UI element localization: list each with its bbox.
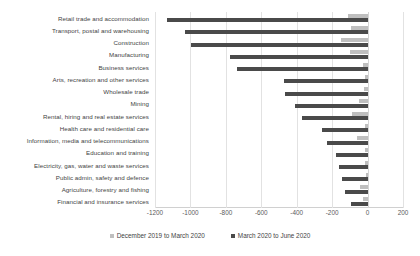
legend-swatch-light-icon <box>110 234 114 238</box>
category-label: Rental, hiring and real estate services <box>43 113 149 120</box>
legend-label: December 2019 to March 2020 <box>117 232 205 239</box>
bar-group <box>155 122 403 134</box>
bar-series-1 <box>322 128 368 132</box>
plot-area <box>155 12 403 208</box>
bar-series-1 <box>284 79 367 83</box>
x-tick-label: -600 <box>255 209 268 216</box>
category-label: Electricity, gas, water and waste servic… <box>34 162 149 169</box>
legend-item[interactable]: March 2020 to June 2020 <box>231 232 310 239</box>
bar-group <box>155 86 403 98</box>
bar-group <box>155 24 403 36</box>
bar-series-0 <box>352 112 368 116</box>
category-label: Wholesale trade <box>103 88 149 95</box>
bar-chart: Retail trade and accommodationTransport,… <box>0 0 420 256</box>
x-tick-label: -1200 <box>147 209 163 216</box>
legend-swatch-dark-icon <box>231 234 235 238</box>
bar-series-0 <box>360 185 368 189</box>
bar-series-1 <box>295 104 368 108</box>
bar-series-1 <box>237 67 367 71</box>
gridline <box>403 12 404 208</box>
category-label: Business services <box>98 64 149 71</box>
bar-series-0 <box>365 75 368 79</box>
bar-series-0 <box>366 173 368 177</box>
category-label: Arts, recreation and other services <box>53 76 149 83</box>
bar-group <box>155 73 403 85</box>
x-tick-label: 0 <box>366 209 370 216</box>
bar-group <box>155 184 403 196</box>
category-label: Construction <box>114 39 149 46</box>
bar-group <box>155 12 403 24</box>
bar-series-0 <box>363 63 367 67</box>
category-label: Retail trade and accommodation <box>58 15 149 22</box>
x-tick-label: -400 <box>290 209 303 216</box>
x-tick-label: -200 <box>326 209 339 216</box>
bar-group <box>155 98 403 110</box>
bar-group <box>155 37 403 49</box>
bar-series-1 <box>327 141 368 145</box>
bar-series-0 <box>351 26 368 30</box>
bar-series-1 <box>230 55 367 59</box>
bar-series-0 <box>350 50 368 54</box>
chart-legend: December 2019 to March 2020March 2020 to… <box>0 232 420 239</box>
bar-group <box>155 196 403 208</box>
bar-series-1 <box>285 92 367 96</box>
bar-series-0 <box>364 87 368 91</box>
category-label: Manufacturing <box>109 51 149 58</box>
bar-series-0 <box>365 148 368 152</box>
bar-group <box>155 159 403 171</box>
bar-group <box>155 135 403 147</box>
legend-label: March 2020 to June 2020 <box>238 232 310 239</box>
category-label: Information, media and telecommunication… <box>27 137 149 144</box>
bar-series-1 <box>345 190 368 194</box>
bar-group <box>155 171 403 183</box>
bar-series-1 <box>339 165 367 169</box>
bar-series-0 <box>365 124 368 128</box>
category-label: Education and training <box>86 149 149 156</box>
bar-series-1 <box>342 177 368 181</box>
bar-group <box>155 61 403 73</box>
bar-series-1 <box>302 116 368 120</box>
bar-series-0 <box>357 136 368 140</box>
bar-series-0 <box>341 38 368 42</box>
bar-group <box>155 49 403 61</box>
bar-series-1 <box>191 43 367 47</box>
legend-item[interactable]: December 2019 to March 2020 <box>110 232 205 239</box>
category-axis-labels: Retail trade and accommodationTransport,… <box>0 12 152 208</box>
category-label: Transport, postal and warehousing <box>52 27 149 34</box>
category-label: Public admin, safety and defence <box>56 174 149 181</box>
bar-group <box>155 110 403 122</box>
bar-series-1 <box>336 153 368 157</box>
x-tick-label: -1000 <box>182 209 198 216</box>
category-label: Health care and residential care <box>60 125 149 132</box>
x-tick-label: 200 <box>398 209 409 216</box>
bar-series-1 <box>351 202 368 206</box>
bar-series-0 <box>348 14 367 18</box>
category-label: Agriculture, forestry and fishing <box>62 186 149 193</box>
x-tick-label: -800 <box>219 209 232 216</box>
bar-series-0 <box>365 161 368 165</box>
bar-series-1 <box>167 18 367 22</box>
category-label: Mining <box>130 100 149 107</box>
category-label: Financial and insurance services <box>57 198 149 205</box>
x-axis-ticks: -1200-1000-800-600-400-2000200 <box>155 209 403 223</box>
bar-series-0 <box>363 197 367 201</box>
bar-series-1 <box>185 30 367 34</box>
bar-group <box>155 147 403 159</box>
bar-series-0 <box>359 99 368 103</box>
